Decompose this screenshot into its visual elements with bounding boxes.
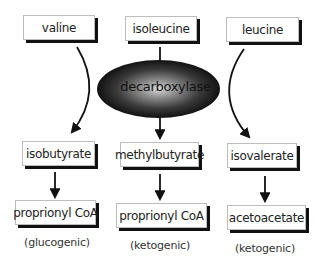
- node-valine: valine: [23, 15, 95, 40]
- node-isoleucine: isoleucine: [125, 16, 197, 41]
- decarboxylase-enzyme: decarboxylase: [97, 60, 220, 118]
- node-methylbutyrate: methylbutyrate: [120, 142, 199, 167]
- node-product-2: proprionyl CoA: [116, 203, 207, 228]
- curved-arrow-valine: [72, 47, 89, 132]
- classification-label-3: (ketogenic): [225, 242, 305, 255]
- node-product-3: acetoacetate: [227, 205, 306, 230]
- classification-label-2: (ketogenic): [120, 239, 200, 252]
- classification-label-1: (glucogenic): [17, 236, 97, 249]
- node-product-1: proprionyl CoA: [15, 200, 96, 225]
- node-isovalerate: isovalerate: [227, 143, 297, 168]
- curved-arrow-leucine: [229, 49, 249, 137]
- node-leucine: leucine: [226, 17, 299, 42]
- enzyme-label: decarboxylase: [97, 79, 220, 94]
- node-isobutyrate: isobutyrate: [22, 141, 95, 166]
